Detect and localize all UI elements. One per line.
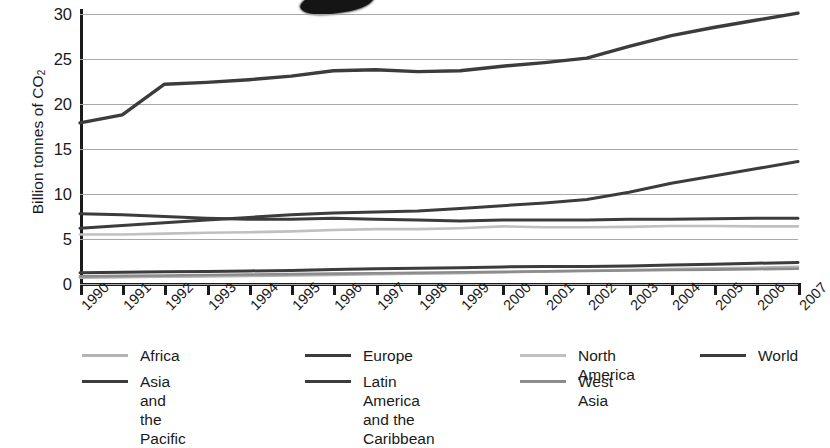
series-line-world xyxy=(80,13,798,123)
y-axis-tick-label: 15 xyxy=(54,141,72,157)
legend-swatch-icon xyxy=(520,380,566,383)
chart-legend: AfricaAsia and the PacificEuropeLatin Am… xyxy=(0,340,825,430)
legend-swatch-icon xyxy=(700,354,746,357)
legend-swatch-icon xyxy=(305,380,351,383)
x-axis-tick-label: 2007 xyxy=(796,279,830,313)
y-axis-tick-label: 0 xyxy=(63,276,72,292)
y-axis-tick-labels: 302520151050 xyxy=(32,0,72,300)
y-axis-tick-label: 25 xyxy=(54,51,72,67)
plot-area xyxy=(80,14,798,284)
legend-label: Asia and the Pacific xyxy=(140,372,186,448)
legend-label: Africa xyxy=(140,346,180,365)
legend-label: World xyxy=(758,346,798,365)
legend-swatch-icon xyxy=(305,354,351,357)
y-axis-tick-label: 10 xyxy=(54,186,72,202)
legend-label: Europe xyxy=(363,346,413,365)
legend-label: West Asia xyxy=(578,372,613,410)
y-axis-tick-label: 30 xyxy=(54,6,72,22)
y-axis-tick-label: 20 xyxy=(54,96,72,112)
legend-label: Latin America and the Caribbean xyxy=(363,372,435,448)
y-axis-tick-label: 5 xyxy=(63,231,72,247)
legend-swatch-icon xyxy=(82,354,128,357)
legend-swatch-icon xyxy=(82,380,128,383)
legend-swatch-icon xyxy=(520,354,566,357)
series-lines xyxy=(80,14,798,284)
x-axis-tick-labels: 1990199119921993199419951996199719981999… xyxy=(0,292,825,342)
series-line-north-america xyxy=(80,226,798,235)
